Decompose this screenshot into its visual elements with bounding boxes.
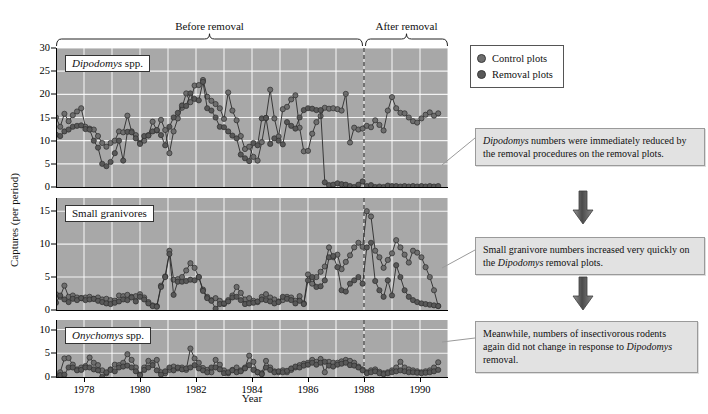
y-axis-line-top xyxy=(56,48,57,187)
y-tick-label: 15 xyxy=(40,112,51,123)
y-tick-mark xyxy=(51,244,56,245)
panel-dipodomys: Dipodomys spp. 051015202530 xyxy=(56,48,448,187)
y-tick-label: 30 xyxy=(40,43,51,54)
y-tick-mark xyxy=(51,377,56,378)
y-tick-label: 0 xyxy=(45,305,50,316)
x-tick-mark xyxy=(140,377,141,382)
callout-dipodomys: Dipodomys numbers were immediately reduc… xyxy=(475,128,705,166)
y-tick-label: 15 xyxy=(40,206,51,217)
down-arrow-icon-1 xyxy=(572,190,594,226)
y-tick-mark xyxy=(51,163,56,164)
down-arrow-icon-2 xyxy=(572,276,594,312)
y-tick-label: 5 xyxy=(45,272,50,283)
callout-text: removal plots. xyxy=(543,257,603,268)
x-tick-label: 1980 xyxy=(130,384,151,395)
callout-granivores: Small granivore numbers increased very q… xyxy=(475,237,705,275)
x-tick-mark xyxy=(364,377,365,382)
legend: Control plots Removal plots xyxy=(470,45,564,88)
x-tick-label: 1982 xyxy=(186,384,207,395)
y-tick-label: 20 xyxy=(40,89,51,100)
x-tick-label: 1988 xyxy=(354,384,375,395)
y-tick-mark xyxy=(51,187,56,188)
y-tick-mark xyxy=(51,310,56,311)
y-tick-mark xyxy=(51,277,56,278)
y-tick-mark xyxy=(51,329,56,330)
x-axis-line-mid xyxy=(56,310,448,311)
y-tick-mark xyxy=(51,48,56,49)
x-tick-label: 1986 xyxy=(298,384,319,395)
bracket-row: Before removal After removal xyxy=(0,20,466,48)
y-tick-mark xyxy=(51,117,56,118)
callout-italic-term: Dipodomys xyxy=(627,341,673,352)
y-axis-line-bot xyxy=(56,320,57,377)
panel-title-dipodomys: Dipodomys spp. xyxy=(65,55,150,72)
chart-area: Before removal After removal Captures (p… xyxy=(0,0,466,414)
y-tick-label: 0 xyxy=(45,182,50,193)
panel-title-onychomys: Onychomys spp. xyxy=(65,327,151,344)
figure-root: Before removal After removal Captures (p… xyxy=(0,0,708,414)
x-tick-mark xyxy=(84,377,85,382)
y-tick-label: 0 xyxy=(45,372,50,383)
callout-italic-term: Dipodomys xyxy=(483,135,529,146)
legend-item-control: Control plots xyxy=(477,50,553,66)
y-axis-label-wrap: Captures (per period) xyxy=(10,160,26,280)
x-tick-label: 1978 xyxy=(74,384,95,395)
legend-item-removal: Removal plots xyxy=(477,66,553,82)
y-tick-label: 10 xyxy=(40,324,51,335)
y-tick-mark xyxy=(51,94,56,95)
y-tick-label: 10 xyxy=(40,135,51,146)
x-tick-mark xyxy=(252,377,253,382)
y-axis-label: Captures (per period) xyxy=(8,173,20,267)
x-tick-label: 1990 xyxy=(410,384,431,395)
y-tick-mark xyxy=(51,353,56,354)
x-tick-mark xyxy=(308,377,309,382)
x-axis-line-top xyxy=(56,187,448,188)
y-tick-mark xyxy=(51,211,56,212)
y-tick-mark xyxy=(51,71,56,72)
legend-label-removal: Removal plots xyxy=(492,69,553,80)
y-tick-mark xyxy=(51,140,56,141)
callout-onychomys: Meanwhile, numbers of insectivorous rode… xyxy=(475,321,698,373)
panel-title-small-granivores: Small granivores xyxy=(65,205,154,222)
callout-text: removal. xyxy=(483,354,518,365)
bracket-curly-braces xyxy=(0,20,466,48)
legend-marker-control-icon xyxy=(477,54,486,63)
panel-small-granivores: Small granivores 051015 xyxy=(56,198,448,310)
legend-marker-removal-icon xyxy=(477,70,486,79)
x-tick-mark xyxy=(420,377,421,382)
legend-label-control: Control plots xyxy=(492,53,547,64)
x-axis-label: Year xyxy=(242,392,262,404)
x-tick-mark xyxy=(196,377,197,382)
y-tick-label: 10 xyxy=(40,239,51,250)
y-tick-label: 5 xyxy=(45,159,50,170)
callout-italic-term: Dipodomys xyxy=(498,257,544,268)
y-tick-label: 25 xyxy=(40,66,51,77)
y-tick-label: 5 xyxy=(45,348,50,359)
y-axis-line-mid xyxy=(56,198,57,310)
panel-onychomys: Onychomys spp. 0510 19781980198219841986… xyxy=(56,320,448,377)
